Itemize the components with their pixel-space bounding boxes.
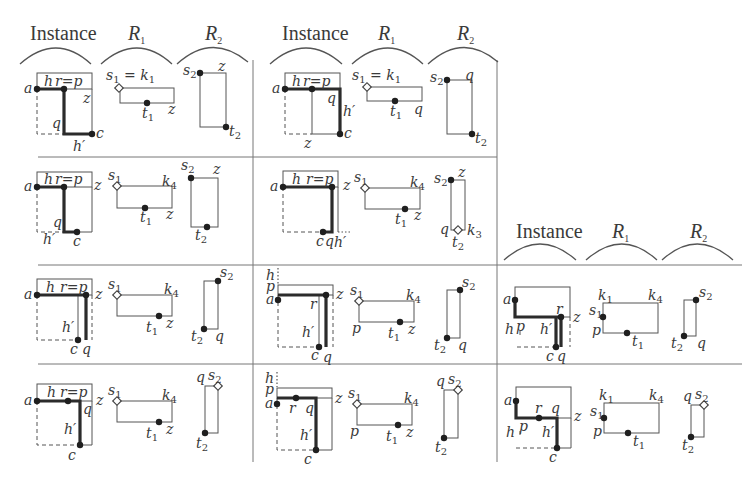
svg-text:t2: t2 [475, 130, 487, 148]
brace-arc-instance [20, 48, 91, 64]
svg-text:p: p [516, 318, 525, 334]
svg-text:r=p: r=p [55, 73, 82, 89]
svg-text:h: h [292, 171, 301, 187]
svg-text:q: q [414, 101, 423, 117]
svg-text:a: a [24, 286, 32, 302]
svg-text:t1: t1 [146, 425, 158, 443]
svg-text:h′: h′ [73, 138, 86, 154]
svg-text:s2: s2 [220, 264, 234, 282]
svg-text:p: p [592, 322, 601, 338]
svg-text:h′: h′ [343, 103, 356, 119]
svg-text:c: c [344, 125, 352, 141]
svg-text:z: z [165, 315, 174, 331]
r2-drawing: s2 t2 q [434, 274, 476, 355]
svg-text:h: h [292, 73, 301, 89]
header-group-2: Instance R1 R2 [270, 22, 498, 64]
instance-drawing: h p a r z h′ c q [266, 267, 344, 365]
r1-drawing: s1 k4 t1 z [108, 382, 177, 443]
instance-drawing: a h r=p q h′ c z [272, 73, 356, 151]
svg-text:c: c [68, 447, 76, 463]
svg-text:q: q [305, 400, 314, 416]
svg-text:t2: t2 [191, 328, 203, 346]
svg-text:s2: s2 [430, 69, 444, 87]
r1-drawing: s1 k4 p t1 z [350, 282, 421, 343]
svg-text:q: q [465, 67, 474, 83]
svg-text:s1: s1 [590, 403, 604, 421]
svg-text:s1: s1 [108, 382, 122, 400]
svg-text:z: z [94, 286, 103, 302]
svg-text:p: p [593, 423, 602, 439]
point-c [89, 131, 95, 137]
brace-arc-r2 [428, 47, 498, 64]
brace-arc-r2 [662, 244, 733, 260]
svg-text:q: q [325, 233, 334, 249]
svg-text:h′: h′ [542, 424, 555, 440]
svg-text:h: h [47, 384, 56, 400]
r1-drawing: s1 k4 t1 z [108, 276, 179, 337]
instance-drawing: a h r=p z q h′ c [24, 384, 104, 463]
r2-drawing: q s2 t2 [435, 371, 462, 457]
svg-text:r: r [310, 296, 318, 312]
r2-drawing: s2 q t2 [430, 67, 487, 148]
instance-drawing: h p a r q z h′ c [265, 370, 343, 467]
cell-r2c2: a h r=p z c q h′ s1 k4 t1 z s2 z q k3 t2 [270, 164, 482, 252]
svg-text:t2: t2 [671, 335, 683, 353]
svg-text:h′: h′ [43, 231, 56, 247]
svg-text:q: q [215, 328, 224, 344]
svg-text:z: z [165, 421, 174, 437]
svg-text:z: z [303, 135, 312, 151]
svg-text:q: q [83, 401, 92, 417]
svg-text:z: z [95, 392, 104, 408]
svg-text:t1: t1 [386, 428, 398, 446]
svg-text:z: z [93, 177, 102, 193]
svg-text:r=p: r=p [306, 171, 333, 187]
svg-text:q: q [551, 400, 560, 416]
svg-text:t1: t1 [633, 433, 645, 451]
svg-text:s2: s2 [448, 371, 462, 389]
svg-text:k4: k4 [164, 281, 179, 299]
svg-text:t2: t2 [434, 337, 446, 355]
svg-text:z: z [573, 408, 582, 424]
svg-text:r=p: r=p [303, 73, 330, 89]
cell-r2c1: a h r=p z q h′ c s1 k4 t1 z s2 z t2 [24, 157, 221, 249]
svg-text:c: c [546, 348, 554, 364]
svg-text:c: c [70, 341, 78, 357]
svg-text:t2: t2 [196, 435, 208, 453]
svg-text:t2: t2 [229, 123, 241, 141]
svg-text:k4: k4 [649, 387, 664, 405]
svg-text:t1: t1 [632, 333, 644, 351]
r2-drawing: s2 z t2 [183, 58, 241, 141]
instance-drawing: a h r=p z q c h′ [24, 73, 104, 154]
svg-text:z: z [167, 101, 176, 117]
svg-text:s1 = k1: s1 = k1 [352, 67, 401, 85]
svg-text:s2: s2 [208, 367, 222, 385]
header-instance: Instance [30, 22, 97, 44]
svg-text:s1: s1 [108, 167, 122, 185]
instance-drawing: a h r=p z c q h′ [270, 171, 351, 250]
svg-text:z: z [342, 177, 351, 193]
svg-text:p: p [352, 320, 361, 336]
svg-text:k4: k4 [404, 390, 419, 408]
svg-text:a: a [272, 80, 280, 96]
svg-text:s1: s1 [348, 385, 362, 403]
svg-text:s1: s1 [350, 282, 364, 300]
point-s1-diamond [115, 84, 123, 92]
svg-text:t1: t1 [142, 105, 154, 123]
r1-drawing: s1 k4 p t1 z [348, 385, 419, 446]
svg-text:s1: s1 [108, 276, 122, 294]
cell-r3c3: a r z h p h′ c q k1 k4 s1 p t1 s2 t2 q [503, 284, 713, 364]
svg-text:t1: t1 [140, 209, 152, 227]
svg-text:z: z [413, 207, 422, 223]
svg-text:r: r [535, 400, 543, 416]
svg-text:q: q [440, 221, 449, 237]
svg-text:s2: s2 [462, 274, 476, 292]
svg-text:k4: k4 [648, 287, 663, 305]
svg-text:z: z [335, 286, 344, 302]
svg-text:s2: s2 [181, 157, 195, 175]
svg-text:k3: k3 [467, 222, 482, 240]
svg-text:t2: t2 [435, 439, 447, 457]
point-a [34, 86, 40, 92]
svg-text:h: h [505, 321, 514, 337]
svg-text:k4: k4 [406, 287, 421, 305]
brace-arc-instance [504, 244, 576, 260]
